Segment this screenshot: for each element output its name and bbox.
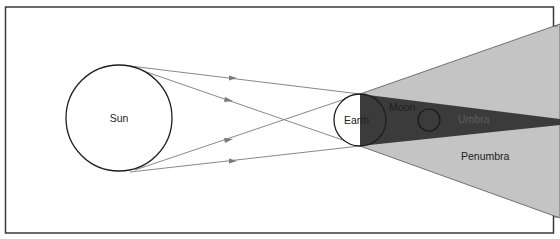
penumbra-label: Penumbra: [461, 150, 510, 162]
umbra-label: Umbra: [458, 113, 490, 125]
moon-label: Moon: [389, 101, 415, 113]
lunar-eclipse-diagram: Sun Earth Moon Umbra Penumbra: [0, 0, 560, 239]
sun-label: Sun: [110, 112, 129, 124]
earth-label: Earth: [344, 114, 369, 126]
